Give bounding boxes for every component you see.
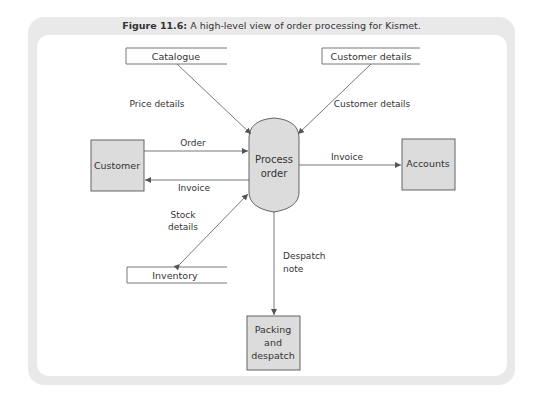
entity-packing-despatch: Packing and despatch: [247, 316, 300, 370]
entity-accounts: Accounts: [402, 139, 455, 190]
store-catalogue-label: Catalogue: [152, 51, 201, 62]
flow-price-details-label: Price details: [130, 99, 185, 109]
store-customer-details: Customer details: [322, 48, 420, 64]
entity-customer-label: Customer: [94, 160, 140, 171]
store-inventory: Inventory: [127, 267, 227, 283]
process-order: Process order: [249, 118, 299, 212]
process-order-label-2: order: [261, 168, 289, 179]
flow-invoice-customer: Invoice: [145, 180, 249, 193]
flow-order: Order: [144, 138, 248, 151]
flow-order-label: Order: [180, 138, 206, 148]
flow-invoice-customer-label: Invoice: [178, 183, 211, 193]
entity-packing-label-2: and: [264, 337, 282, 348]
flow-despatch-note-label-1: Despatch: [283, 251, 326, 261]
flow-despatch-note: Despatch note: [274, 212, 326, 315]
flow-stock-details-label-2: details: [168, 222, 198, 232]
entity-packing-label-1: Packing: [255, 324, 292, 335]
flow-invoice-accounts-label: Invoice: [331, 152, 364, 162]
process-order-label-1: Process: [255, 154, 293, 165]
entity-packing-label-3: despatch: [251, 350, 295, 361]
dataflow-diagram: Catalogue Customer details Inventory Pro…: [0, 0, 544, 402]
flow-stock-details-label-1: Stock: [171, 210, 197, 220]
flow-price-details: Price details: [130, 64, 251, 134]
entity-customer: Customer: [91, 140, 144, 191]
flow-invoice-accounts: Invoice: [299, 152, 401, 165]
flow-stock-details: Stock details: [168, 194, 248, 264]
store-catalogue: Catalogue: [126, 48, 227, 64]
flow-despatch-note-label-2: note: [283, 264, 304, 274]
flow-customer-details-label: Customer details: [334, 99, 411, 109]
store-inventory-label: Inventory: [152, 270, 198, 281]
entity-accounts-label: Accounts: [406, 158, 449, 169]
flow-customer-details: Customer details: [298, 64, 411, 134]
store-customer-details-label: Customer details: [331, 51, 412, 62]
